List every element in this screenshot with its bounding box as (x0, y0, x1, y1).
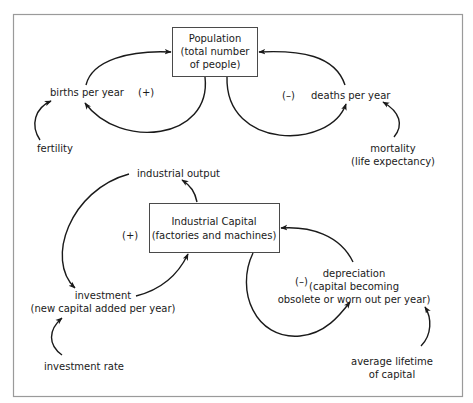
deaths-loop-sign: (–) (282, 90, 295, 101)
investment-rate-label: investment rate (44, 361, 124, 372)
investment-label: investment (75, 290, 132, 301)
depreciation-label: depreciation (323, 268, 385, 279)
population-stock: Population (total number of people) (173, 28, 258, 77)
industrial-output-label: industrial output (137, 168, 220, 179)
births-per-year-label: births per year (50, 87, 125, 98)
fertility-label: fertility (37, 143, 73, 154)
mortality-label: mortality (370, 143, 415, 154)
investment-subtitle: (new capital added per year) (30, 303, 175, 314)
population-subtitle-1: (total number (181, 46, 251, 57)
population-subtitle-2: of people) (190, 59, 241, 70)
depreciation-subtitle-1: (capital becoming (309, 281, 399, 292)
causal-loop-diagram: Population (total number of people) birt… (0, 0, 473, 403)
investment-loop-sign: (+) (122, 230, 138, 241)
depreciation-loop-sign: (–) (295, 276, 308, 287)
life-expectancy-label: (life expectancy) (351, 156, 435, 167)
deaths-per-year-label: deaths per year (311, 90, 391, 101)
births-loop-sign: (+) (138, 87, 154, 98)
industrial-capital-title: Industrial Capital (171, 216, 256, 227)
depreciation-subtitle-2: obsolete or worn out per year) (278, 294, 431, 305)
industrial-capital-box (150, 204, 280, 253)
industrial-capital-stock: Industrial Capital (factories and machin… (150, 204, 280, 253)
population-title: Population (189, 33, 242, 44)
average-lifetime-label: average lifetime (351, 356, 433, 367)
industrial-capital-subtitle: (factories and machines) (152, 230, 277, 241)
of-capital-label: of capital (369, 369, 415, 380)
